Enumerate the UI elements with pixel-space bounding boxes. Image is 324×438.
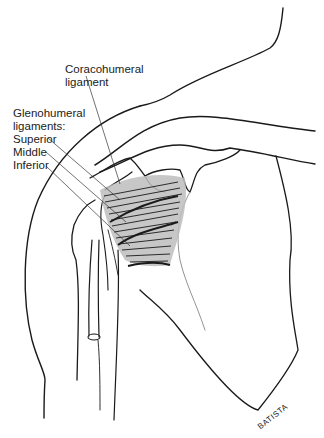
- glenohumeral-label: Glenohumeral ligaments: Superior Middle …: [13, 107, 85, 172]
- inferior-label: Inferior: [13, 159, 85, 172]
- coracohumeral-label: Coracohumeral ligament: [65, 63, 144, 89]
- superior-label: Superior: [13, 133, 85, 146]
- coracohumeral-label-line1: Coracohumeral: [65, 63, 144, 76]
- shoulder-ligament-illustration: Coracohumeral ligament Glenohumeral liga…: [0, 0, 324, 438]
- glenohumeral-ligament-region: [100, 175, 186, 266]
- anatomy-drawing: [0, 0, 324, 438]
- middle-label: Middle: [13, 146, 85, 159]
- glenohumeral-label-line2: ligaments:: [13, 120, 85, 133]
- coracohumeral-leader-line: [86, 76, 120, 184]
- glenohumeral-label-line1: Glenohumeral: [13, 107, 85, 120]
- coracohumeral-label-line2: ligament: [65, 76, 144, 89]
